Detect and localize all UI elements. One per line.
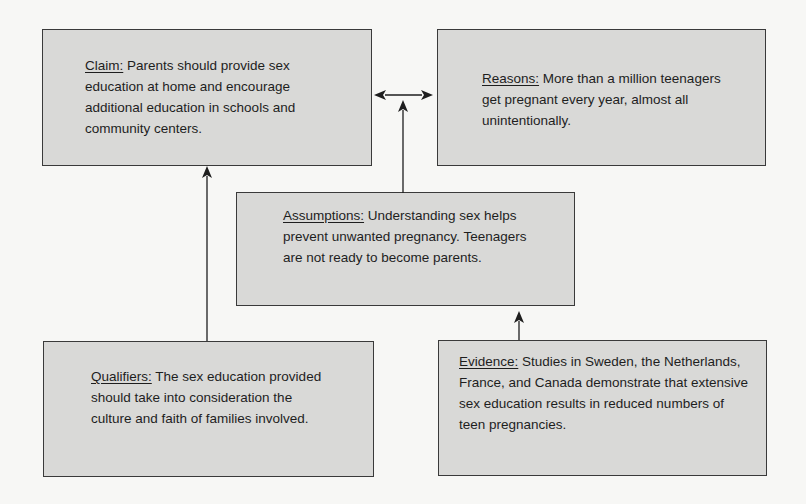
claim-reasons-double-arrow	[374, 90, 433, 100]
qualifiers-to-claim-arrow	[202, 166, 212, 341]
claim-text: Claim: Parents should provide sex educat…	[85, 55, 335, 139]
arrowhead-left-icon	[374, 90, 386, 100]
evidence-label: Evidence:	[459, 354, 518, 369]
toulmin-diagram: Claim: Parents should provide sex educat…	[0, 0, 806, 504]
evidence-to-assumptions-arrow	[514, 311, 524, 340]
evidence-box: Evidence: Studies in Sweden, the Netherl…	[438, 340, 767, 476]
assumptions-text: Assumptions: Understanding sex helps pre…	[283, 205, 533, 268]
assumptions-box: Assumptions: Understanding sex helps pre…	[236, 192, 575, 306]
assumptions-label: Assumptions:	[283, 208, 364, 223]
evidence-text: Evidence: Studies in Sweden, the Netherl…	[459, 351, 749, 435]
claim-box: Claim: Parents should provide sex educat…	[42, 29, 372, 166]
reasons-label: Reasons:	[482, 71, 539, 86]
reasons-text: Reasons: More than a million teenagers g…	[482, 68, 732, 131]
arrowhead-up-icon	[514, 311, 524, 323]
qualifiers-box: Qualifiers: The sex education provided s…	[43, 341, 374, 477]
arrowhead-up-icon	[202, 166, 212, 178]
arrowhead-up-icon	[398, 100, 408, 112]
qualifiers-text: Qualifiers: The sex education provided s…	[91, 366, 331, 429]
reasons-box: Reasons: More than a million teenagers g…	[437, 29, 766, 166]
claim-label: Claim:	[85, 58, 123, 73]
assumptions-to-link-arrow	[398, 100, 408, 193]
arrowhead-right-icon	[421, 90, 433, 100]
qualifiers-label: Qualifiers:	[91, 369, 152, 384]
